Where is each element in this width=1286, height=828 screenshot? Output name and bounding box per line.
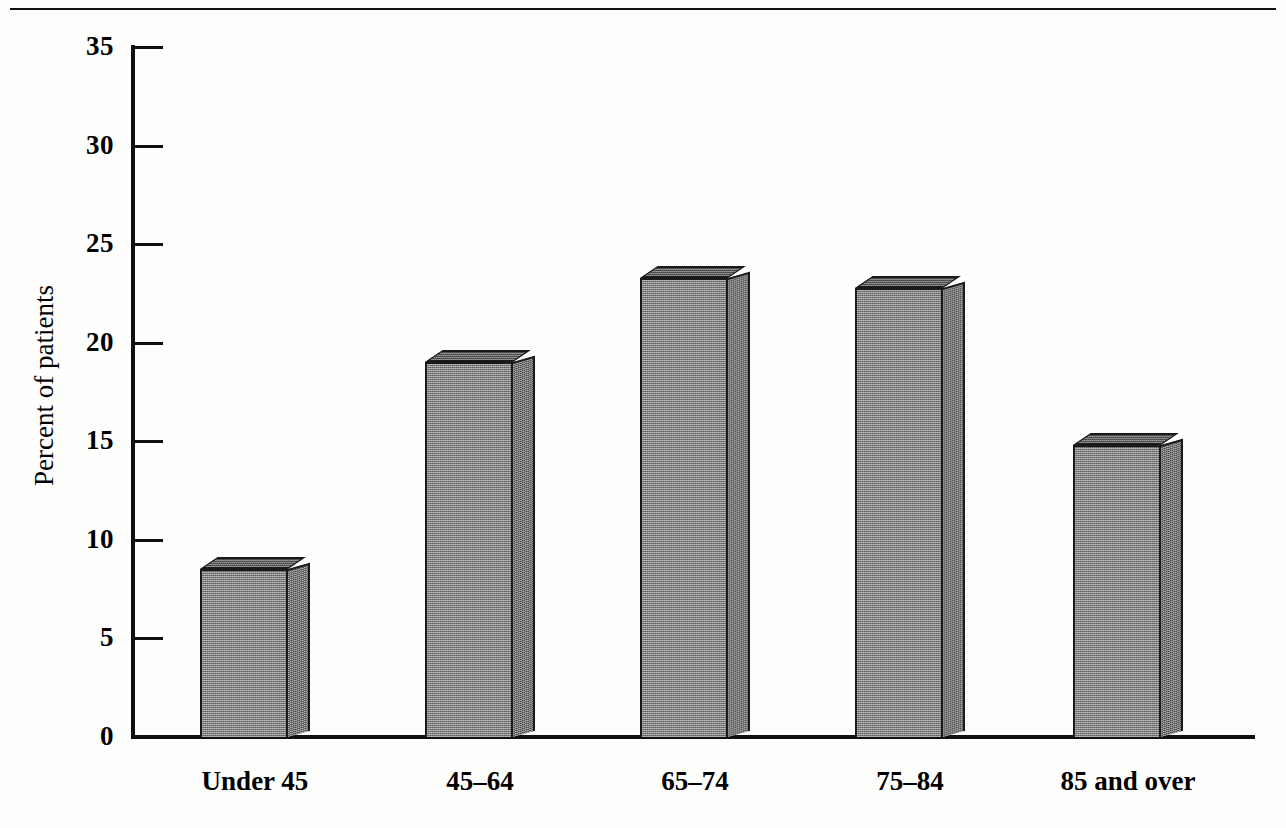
y-axis-tick (135, 539, 163, 542)
y-axis-tick (135, 243, 163, 246)
bar-side-face (728, 271, 750, 737)
bar-side-face (1161, 439, 1183, 737)
bar-front-face (855, 288, 943, 737)
y-axis-tick-label: 20 (34, 329, 114, 356)
y-axis-tick (135, 342, 163, 345)
bar (855, 276, 965, 737)
y-axis-tick-label: 30 (34, 132, 114, 159)
y-axis-tick (135, 637, 163, 640)
bar-side-face (513, 356, 535, 737)
y-axis-title: Percent of patients (31, 256, 58, 516)
x-axis-category-label: 65–74 (575, 766, 815, 796)
y-axis-tick-label: 5 (34, 624, 114, 651)
bar (640, 266, 750, 737)
bar-front-face (640, 278, 728, 737)
x-axis-category-label: 45–64 (360, 766, 600, 796)
bar (425, 350, 535, 737)
bar-front-face (1073, 445, 1161, 737)
y-axis-tick (135, 736, 163, 739)
y-axis-tick (135, 440, 163, 443)
y-axis-tick (135, 145, 163, 148)
x-axis-category-label: 85 and over (1008, 766, 1248, 796)
y-axis-tick (135, 46, 163, 49)
y-axis-tick-label: 0 (34, 723, 114, 750)
y-axis-tick-label: 10 (34, 526, 114, 553)
y-axis-tick-label: 15 (34, 427, 114, 454)
bar-front-face (200, 569, 288, 737)
x-axis-category-label: Under 45 (135, 766, 375, 796)
bar (1073, 433, 1183, 737)
bar-top-face (200, 557, 306, 569)
bar-chart-figure: Percent of patients 05101520253035 Under… (0, 0, 1286, 828)
bar-side-face (943, 281, 965, 737)
bar-top-face (425, 350, 531, 362)
y-axis-line (131, 45, 135, 739)
bar (200, 557, 310, 737)
y-axis-tick-label: 25 (34, 230, 114, 257)
bar-front-face (425, 362, 513, 737)
bar-top-face (855, 276, 961, 288)
x-axis-category-label: 75–84 (790, 766, 1030, 796)
bar-top-face (1073, 433, 1179, 445)
bar-top-face (640, 266, 746, 278)
bar-side-face (288, 563, 310, 737)
y-axis-tick-label: 35 (34, 33, 114, 60)
